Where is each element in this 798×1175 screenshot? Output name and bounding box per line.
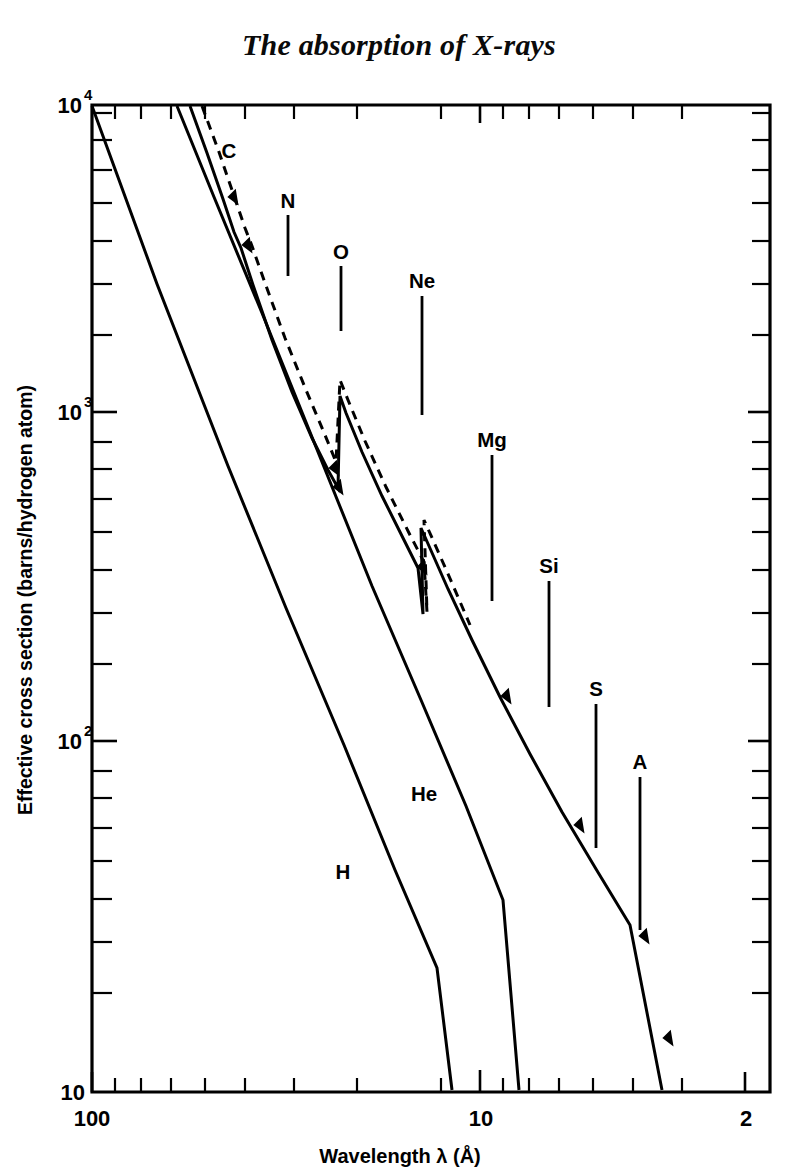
- x-tick-label-100: 100: [74, 1106, 111, 1131]
- curve-label-He: He: [411, 782, 437, 805]
- element-marker-lines: [288, 215, 640, 930]
- figure-root: The absorption of X-rays: [0, 0, 798, 1175]
- element-label-Ne: Ne: [409, 269, 435, 292]
- x-axis-ticks-bottom: [92, 1070, 745, 1092]
- y-axis-title: Effective cross section (barns/hydrogen …: [14, 385, 36, 815]
- svg-text:10: 10: [61, 1080, 85, 1105]
- plot-frame: [92, 105, 770, 1092]
- curve-label-H: H: [336, 860, 351, 883]
- element-label-C: C: [222, 139, 237, 162]
- svg-text:2: 2: [84, 722, 92, 739]
- element-label-Mg: Mg: [477, 428, 507, 451]
- x-axis-title: Wavelength λ (Å): [319, 1144, 481, 1167]
- x-axis-tick-labels: 100 10 2: [74, 1106, 752, 1131]
- curve-H: [92, 106, 452, 1090]
- svg-text:10: 10: [58, 729, 82, 754]
- y-tick-label-10000: 10 4: [58, 86, 93, 118]
- y-tick-label-1000: 10 3: [58, 393, 93, 425]
- element-labels: C N O Ne Mg Si S A: [222, 139, 648, 773]
- curve-inline-labels: He H: [336, 782, 438, 883]
- x-tick-label-2: 2: [740, 1106, 752, 1131]
- x-axis-ticks-top: [115, 105, 682, 123]
- y-tick-label-100: 10 2: [58, 722, 93, 754]
- element-label-A: A: [633, 750, 648, 773]
- element-label-Si: Si: [539, 554, 558, 577]
- element-label-N: N: [281, 189, 296, 212]
- svg-text:4: 4: [84, 86, 93, 103]
- svg-text:3: 3: [84, 393, 92, 410]
- y-tick-label-10: 10: [61, 1080, 85, 1105]
- element-label-O: O: [333, 240, 349, 263]
- svg-text:10: 10: [58, 400, 82, 425]
- chart-canvas: C N O Ne Mg Si S A He H 10 4 10 3 10: [0, 0, 798, 1175]
- x-tick-label-10: 10: [469, 1106, 493, 1131]
- y-axis-tick-labels: 10 4 10 3 10 2 10: [58, 86, 93, 1105]
- y-axis-ticks-left: [92, 113, 117, 1000]
- svg-text:10: 10: [58, 93, 82, 118]
- element-label-S: S: [589, 677, 603, 700]
- curve-data-markers: [229, 191, 672, 1044]
- y-axis-ticks-right: [748, 113, 770, 993]
